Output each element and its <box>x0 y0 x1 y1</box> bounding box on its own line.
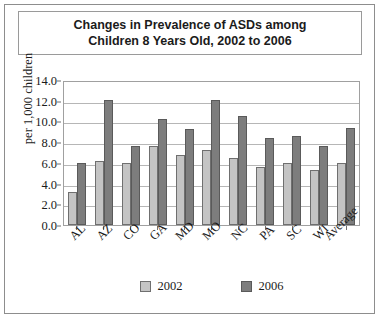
y-axis-tick-label: 8.0 <box>41 136 57 151</box>
y-axis-tick-mark <box>57 101 61 102</box>
bar-group <box>68 82 86 225</box>
y-axis-tick-label: 14.0 <box>35 74 57 89</box>
bar <box>77 163 86 225</box>
bar <box>292 136 301 225</box>
bar <box>176 155 185 225</box>
x-axis-label-slot: MD <box>171 231 198 273</box>
bar <box>283 163 292 225</box>
y-axis-tick-label: 2.0 <box>41 198 57 213</box>
chart-title-box: Changes in Prevalence of ASDs among Chil… <box>18 11 362 55</box>
bar <box>185 129 194 225</box>
x-axis-label-slot: Average <box>333 231 360 273</box>
y-axis-tick-label: 0.0 <box>41 219 57 234</box>
x-axis-label-slot: SC <box>279 231 306 273</box>
chart-figure: Changes in Prevalence of ASDs among Chil… <box>4 4 375 314</box>
legend-label: 2006 <box>259 279 284 294</box>
plot-area <box>63 81 360 226</box>
y-axis-tick-mark <box>57 143 61 144</box>
y-axis-tick-mark <box>57 226 61 227</box>
y-axis-tick-mark <box>57 163 61 164</box>
bar-group <box>202 82 220 225</box>
bar-group <box>95 82 113 225</box>
bar <box>131 146 140 225</box>
legend-swatch <box>140 281 151 292</box>
bar <box>310 170 319 225</box>
bar <box>122 163 131 225</box>
bar <box>319 146 328 225</box>
y-axis-ticks: 14.012.010.08.06.04.02.00.0 <box>19 81 61 226</box>
bar <box>265 138 274 225</box>
bar <box>256 167 265 225</box>
bar-groups <box>64 82 359 225</box>
bar <box>68 192 77 225</box>
bar-group <box>337 82 355 225</box>
bar <box>158 119 167 225</box>
legend-item: 2002 <box>140 279 183 294</box>
y-axis-tick-label: 4.0 <box>41 177 57 192</box>
bar <box>229 158 238 225</box>
bar <box>104 100 113 225</box>
bar-group <box>229 82 247 225</box>
y-axis-tick-mark <box>57 184 61 185</box>
bar <box>211 100 220 225</box>
x-axis-label-slot: CO <box>117 231 144 273</box>
bar-group <box>310 82 328 225</box>
x-axis-label-slot: NC <box>225 231 252 273</box>
bar-group <box>122 82 140 225</box>
x-axis-label-slot: MO <box>198 231 225 273</box>
y-axis-tick-mark <box>57 205 61 206</box>
y-axis-tick-mark <box>57 122 61 123</box>
y-axis-tick-label: 6.0 <box>41 156 57 171</box>
chart-legend: 20022006 <box>63 279 360 294</box>
bar <box>202 150 211 225</box>
y-axis-tick-label: 12.0 <box>35 94 57 109</box>
y-axis-tick-mark <box>57 81 61 82</box>
chart-title-line-2: Children 8 Years Old, 2002 to 2006 <box>88 33 291 49</box>
bar-group <box>176 82 194 225</box>
legend-item: 2006 <box>241 279 284 294</box>
bar-group <box>283 82 301 225</box>
x-axis-labels: ALAZCOGAMDMONCPASCWIAverage <box>63 231 360 273</box>
bar <box>149 146 158 225</box>
bar <box>95 161 104 225</box>
legend-label: 2002 <box>158 279 183 294</box>
x-axis-label-slot: PA <box>252 231 279 273</box>
y-axis-tick-label: 10.0 <box>35 115 57 130</box>
x-axis-label-slot: GA <box>144 231 171 273</box>
bar <box>238 116 247 225</box>
x-axis-label-slot: AZ <box>90 231 117 273</box>
bar-group <box>256 82 274 225</box>
x-axis-label-slot: AL <box>63 231 90 273</box>
chart-title-line-1: Changes in Prevalence of ASDs among <box>74 17 307 33</box>
bar-group <box>149 82 167 225</box>
legend-swatch <box>241 281 252 292</box>
